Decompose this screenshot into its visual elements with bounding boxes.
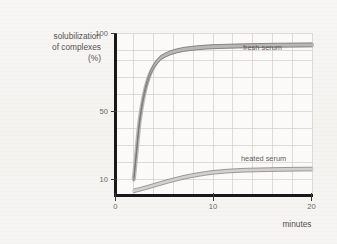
x-tick-label-0: 0	[113, 202, 117, 211]
y-tick-label-10: 10	[100, 175, 108, 184]
y-tick-label-50: 50	[100, 107, 108, 116]
x-tick-label-20: 20	[307, 202, 315, 211]
x-axis-title: minutes	[282, 219, 311, 229]
chart-figure: 100 50 10 0 10 20 solubilization of comp…	[0, 0, 337, 244]
x-tick-label-10: 10	[209, 202, 217, 211]
y-axis-title-line-3: (%)	[88, 53, 101, 63]
series-label-fresh-serum: fresh serum	[243, 43, 282, 52]
y-axis-title-line-2: of complexes	[52, 42, 101, 52]
chart-canvas: 100 50 10 0 10 20 solubilization of comp…	[0, 0, 337, 244]
y-axis-title-line-1: solubilization	[53, 31, 101, 41]
series-label-heated-serum: heated serum	[241, 154, 286, 163]
